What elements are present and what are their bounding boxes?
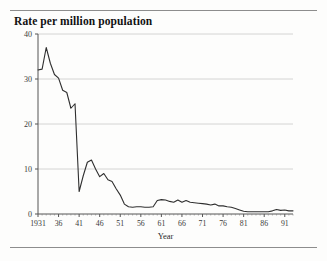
line-chart: 0102030401931364146515661667176818691Yea…	[0, 0, 327, 240]
x-tick-label: 51	[116, 219, 124, 228]
x-tick-label: 86	[260, 219, 268, 228]
y-tick-label: 40	[24, 30, 32, 39]
y-tick-label: 10	[24, 165, 32, 174]
y-tick-label: 20	[24, 120, 32, 129]
x-axis-title: Year	[158, 231, 174, 240]
y-tick-label: 30	[24, 75, 32, 84]
x-tick-label: 71	[199, 219, 207, 228]
x-tick-label: 46	[96, 219, 104, 228]
x-tick-label: 81	[240, 219, 248, 228]
figure-page: Rate per million population 010203040193…	[0, 0, 327, 261]
x-tick-label: 36	[55, 219, 63, 228]
x-tick-label: 66	[178, 219, 186, 228]
bottom-divider-rule	[10, 247, 317, 248]
y-tick-label: 0	[28, 210, 32, 219]
x-tick-label: 56	[137, 219, 145, 228]
chart-area: 0102030401931364146515661667176818691Yea…	[0, 0, 327, 261]
data-series-line	[38, 48, 293, 212]
x-tick-label: 41	[75, 219, 83, 228]
x-tick-label: 1931	[30, 219, 46, 228]
x-tick-label: 76	[219, 219, 227, 228]
x-tick-label: 91	[281, 219, 289, 228]
x-tick-label: 61	[157, 219, 165, 228]
